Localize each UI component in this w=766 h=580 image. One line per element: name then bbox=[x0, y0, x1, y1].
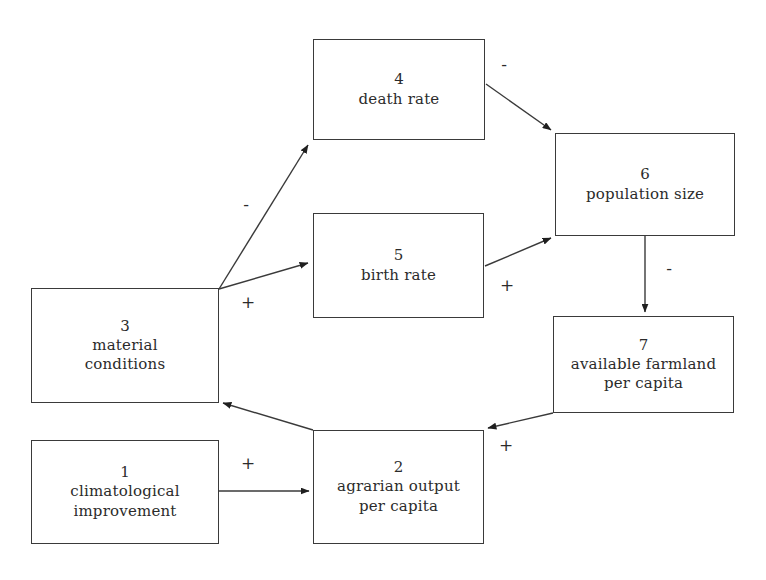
edge-sign-climatological-improvement-to-agrarian-output: + bbox=[240, 455, 256, 472]
edge-death-rate-to-population-size bbox=[486, 84, 551, 130]
causal-loop-diagram: 1climatological improvement2agrarian out… bbox=[0, 0, 766, 580]
edge-sign-available-farmland-to-agrarian-output: + bbox=[498, 437, 514, 454]
node-id: 7 bbox=[639, 336, 649, 355]
edge-sign-birth-rate-to-population-size: + bbox=[499, 277, 515, 294]
node-climatological-improvement[interactable]: 1climatological improvement bbox=[31, 440, 219, 544]
node-population-size[interactable]: 6population size bbox=[555, 133, 735, 236]
node-material-conditions[interactable]: 3material conditions bbox=[31, 288, 219, 403]
node-label: death rate bbox=[359, 90, 440, 109]
edge-sign-death-rate-to-population-size: - bbox=[496, 56, 512, 73]
node-label: available farmland per capita bbox=[571, 355, 716, 393]
node-id: 4 bbox=[394, 70, 404, 89]
edge-sign-population-size-to-available-farmland: - bbox=[661, 260, 677, 277]
node-id: 1 bbox=[120, 463, 130, 482]
edge-available-farmland-to-agrarian-output bbox=[488, 413, 553, 428]
edge-agrarian-output-to-material-conditions bbox=[223, 403, 313, 430]
edge-sign-material-conditions-to-birth-rate: + bbox=[240, 294, 256, 311]
node-id: 6 bbox=[640, 165, 650, 184]
node-id: 2 bbox=[394, 458, 404, 477]
node-label: birth rate bbox=[361, 266, 436, 285]
node-birth-rate[interactable]: 5birth rate bbox=[313, 213, 484, 318]
edge-sign-material-conditions-to-death-rate: - bbox=[238, 196, 254, 213]
node-agrarian-output-per-capita[interactable]: 2agrarian output per capita bbox=[313, 430, 484, 544]
node-label: agrarian output per capita bbox=[337, 477, 460, 515]
node-id: 5 bbox=[394, 246, 404, 265]
node-available-farmland-per-capita[interactable]: 7available farmland per capita bbox=[553, 316, 734, 413]
node-id: 3 bbox=[120, 317, 130, 336]
edge-birth-rate-to-population-size bbox=[485, 238, 551, 266]
node-label: climatological improvement bbox=[70, 482, 179, 520]
node-label: population size bbox=[586, 185, 704, 204]
node-label: material conditions bbox=[85, 336, 166, 374]
node-death-rate[interactable]: 4death rate bbox=[313, 39, 485, 140]
